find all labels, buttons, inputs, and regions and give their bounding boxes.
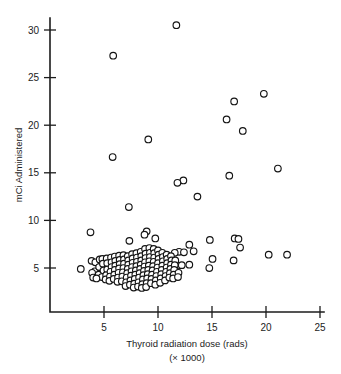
axes: 51015202530 510152025: [28, 18, 326, 333]
data-point-marker: [223, 116, 230, 123]
data-point-marker: [145, 136, 152, 143]
y-tick-label: 15: [28, 167, 40, 178]
axis-lines: [50, 18, 324, 312]
x-axis-ticks: 510152025: [101, 306, 326, 333]
data-point-marker: [87, 229, 94, 236]
data-point-marker: [174, 180, 181, 187]
data-point-marker: [275, 165, 282, 172]
data-markers: [77, 22, 290, 291]
y-tick-label: 25: [28, 72, 40, 83]
data-point-marker: [237, 244, 244, 251]
data-point-marker: [226, 172, 233, 179]
data-point-marker: [186, 261, 193, 268]
data-point-marker: [152, 235, 159, 242]
data-point-marker: [207, 237, 214, 244]
data-point-marker: [206, 265, 213, 272]
data-point-marker: [190, 248, 197, 255]
data-point-marker: [175, 274, 182, 281]
data-point-marker: [265, 251, 272, 258]
x-tick-label: 10: [152, 322, 164, 333]
y-tick-label: 5: [33, 263, 39, 274]
data-point-marker: [77, 266, 84, 273]
x-tick-label: 15: [206, 322, 218, 333]
y-tick-label: 10: [28, 215, 40, 226]
data-point-marker: [235, 236, 242, 243]
data-point-marker: [284, 251, 291, 258]
data-point-marker: [109, 154, 116, 161]
y-axis-label: mCi Administered: [13, 128, 24, 202]
data-point-marker: [178, 262, 185, 269]
data-point-marker: [126, 204, 133, 211]
data-point-marker: [231, 98, 238, 105]
scatter-plot-figure: 51015202530 510152025 Thyroid radiation …: [0, 0, 341, 374]
data-point-marker: [230, 257, 237, 264]
data-point-marker: [110, 52, 117, 59]
plot-canvas: 51015202530 510152025 Thyroid radiation …: [0, 0, 341, 374]
x-tick-label: 25: [314, 322, 326, 333]
x-axis-label: Thyroid radiation dose (rads): [126, 338, 247, 349]
data-point-marker: [194, 193, 201, 200]
x-tick-label: 20: [260, 322, 272, 333]
y-tick-label: 20: [28, 120, 40, 131]
data-point-marker: [126, 238, 133, 245]
x-tick-label: 5: [101, 322, 107, 333]
data-point-marker: [93, 275, 100, 282]
data-point-marker: [181, 249, 188, 256]
x-axis-sublabel: (× 1000): [169, 352, 205, 363]
data-point-marker: [173, 22, 180, 29]
data-point-marker: [209, 256, 216, 263]
data-point-marker: [141, 231, 148, 238]
y-tick-label: 30: [28, 25, 40, 36]
data-point-marker: [239, 128, 246, 135]
data-point-marker: [186, 241, 193, 248]
y-axis-ticks: 51015202530: [28, 25, 56, 274]
data-point-marker: [261, 90, 268, 97]
